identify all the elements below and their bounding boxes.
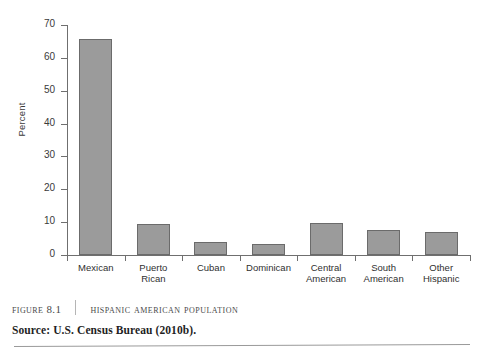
bar [367, 230, 400, 255]
x-axis-tick [182, 255, 183, 261]
x-axis-tick [355, 255, 356, 261]
x-axis-category-label: Other Hispanic [412, 262, 470, 284]
source-line: Source: U.S. Census Bureau (2010b). [12, 324, 196, 336]
bottom-rule [14, 344, 470, 347]
x-axis-line [67, 255, 471, 256]
bar [310, 223, 343, 255]
y-axis-tick [61, 25, 67, 26]
bar [252, 244, 285, 255]
y-axis-tick-label: 0 [0, 248, 55, 259]
x-axis-tick [67, 255, 68, 261]
x-axis-tick [470, 255, 471, 261]
y-axis-tick-label: 50 [0, 84, 55, 95]
bar [194, 242, 227, 255]
y-axis-tick [61, 156, 67, 157]
x-axis-category-label: Central American [297, 262, 355, 284]
y-axis-tick [61, 124, 67, 125]
x-axis-category-label: Puerto Rican [125, 262, 183, 284]
x-axis-category-label: Dominican [240, 262, 298, 273]
x-axis-category-label: South American [355, 262, 413, 284]
y-axis-tick [61, 91, 67, 92]
figure-chart: Percent 010203040506070MexicanPuerto Ric… [0, 0, 482, 292]
bar [137, 224, 170, 255]
caption-title: Hispanic American Population [90, 303, 238, 315]
x-axis-category-label: Mexican [67, 262, 125, 273]
figure-caption: Figure 8.1 Hispanic American Population [12, 298, 238, 315]
x-axis-tick [297, 255, 298, 261]
y-axis-tick-label: 60 [0, 51, 55, 62]
y-axis-tick-label: 70 [0, 18, 55, 29]
figure-number: Figure 8.1 [12, 303, 61, 315]
plot-area [67, 25, 470, 255]
y-axis-tick-label: 10 [0, 215, 55, 226]
y-axis-tick [61, 189, 67, 190]
bar [425, 232, 458, 255]
caption-divider [75, 300, 76, 315]
y-axis-tick [61, 222, 67, 223]
x-axis-tick [240, 255, 241, 261]
y-axis-tick-label: 30 [0, 149, 55, 160]
x-axis-tick [125, 255, 126, 261]
bar [79, 39, 112, 255]
y-axis-tick-label: 20 [0, 182, 55, 193]
x-axis-category-label: Cuban [182, 262, 240, 273]
y-axis-tick [61, 58, 67, 59]
y-axis-tick-label: 40 [0, 117, 55, 128]
x-axis-tick [412, 255, 413, 261]
